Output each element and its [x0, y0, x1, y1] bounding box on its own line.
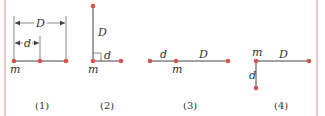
- figure-3: d D m (3): [148, 48, 231, 111]
- label-d: d: [24, 37, 31, 50]
- label-m: m: [172, 63, 182, 76]
- label-D: D: [198, 48, 208, 61]
- label-D: D: [35, 17, 45, 30]
- diagram-canvas: D d m (1) D d m (2) d D m (3) m: [0, 0, 325, 116]
- caption: (2): [100, 100, 114, 111]
- label-D: D: [97, 26, 107, 39]
- figure-4: m D d (4): [249, 46, 311, 111]
- figure-1: D d m (1): [10, 16, 68, 111]
- label-m: m: [10, 63, 20, 76]
- label-d: d: [160, 48, 167, 61]
- mass-dot: [307, 59, 312, 64]
- label-D: D: [278, 48, 288, 61]
- label-d: d: [249, 69, 256, 82]
- mass-dot: [64, 59, 69, 64]
- label-m: m: [252, 46, 262, 59]
- caption: (4): [274, 100, 288, 111]
- mass-dot: [91, 4, 96, 9]
- caption: (3): [183, 100, 197, 111]
- figure-2: D d m (2): [88, 4, 123, 111]
- mass-dot-m: [254, 59, 259, 64]
- label-m: m: [88, 63, 98, 76]
- mass-dot: [38, 59, 43, 64]
- caption: (1): [35, 100, 49, 111]
- mass-dot: [226, 59, 231, 64]
- label-d: d: [104, 49, 111, 62]
- mass-dot: [119, 59, 124, 64]
- mass-dot: [148, 59, 153, 64]
- mass-dot: [254, 86, 259, 91]
